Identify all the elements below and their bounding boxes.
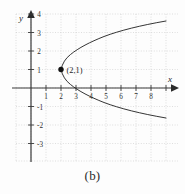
x-axis-arrow bbox=[171, 84, 179, 92]
x-axis bbox=[12, 84, 179, 92]
y-tick-label: 3 bbox=[37, 30, 41, 38]
x-tick-label: 6 bbox=[119, 93, 123, 101]
y-axis-label: y bbox=[18, 13, 23, 23]
figure-container: 1 2 3 4 5 6 7 8 4 3 2 1 -1 -2 -3 y x bbox=[0, 0, 185, 194]
x-tick-labels: 1 2 3 4 5 6 7 8 bbox=[44, 93, 153, 101]
x-tick-label: 2 bbox=[59, 93, 63, 101]
x-tick-label: 7 bbox=[134, 93, 138, 101]
x-tick-label: 5 bbox=[104, 93, 108, 101]
y-tick-label: 2 bbox=[37, 48, 41, 56]
x-tick-label: 3 bbox=[74, 93, 78, 101]
parabola-upper-branch bbox=[61, 21, 166, 70]
y-tick-label: -2 bbox=[37, 122, 43, 130]
x-tick-label: 8 bbox=[149, 93, 153, 101]
y-tick-label: -1 bbox=[37, 104, 43, 112]
y-tick-label: 4 bbox=[37, 11, 41, 19]
y-tick-labels-positive: 4 3 2 1 bbox=[37, 11, 41, 75]
x-axis-label: x bbox=[167, 74, 172, 84]
vertex-point-marker bbox=[58, 67, 63, 72]
y-tick-label: -3 bbox=[37, 141, 43, 149]
plot-svg: 1 2 3 4 5 6 7 8 4 3 2 1 -1 -2 -3 y x bbox=[0, 0, 185, 194]
figure-caption: (b) bbox=[0, 168, 185, 184]
y-tick-labels-negative: -1 -2 -3 bbox=[37, 104, 43, 149]
x-tick-label: 1 bbox=[44, 93, 48, 101]
vertex-point-label: (2,1) bbox=[67, 66, 83, 75]
y-tick-label: 1 bbox=[37, 67, 41, 75]
